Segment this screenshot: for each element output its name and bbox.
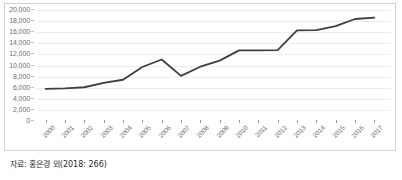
x-tick-label: 2005 (137, 124, 152, 139)
y-tick-mark (31, 98, 34, 99)
y-axis: 02,0004,0006,0008,00010,00012,00014,0001… (0, 9, 34, 120)
x-tick-label: 2009 (215, 124, 230, 139)
x-tick-label: 2010 (234, 124, 249, 139)
x-axis: 2000200120022003200420052006200720082009… (36, 122, 384, 150)
y-tick-mark (31, 109, 34, 110)
y-tick-mark (31, 53, 34, 54)
x-tick-label: 2006 (157, 124, 172, 139)
series-polyline (46, 18, 375, 89)
y-tick-mark (31, 120, 34, 121)
y-tick-label: 18,000 (9, 17, 30, 24)
x-tick-label: 2001 (60, 124, 75, 139)
x-tick-label: 2000 (41, 124, 56, 139)
y-tick-label: 12,000 (9, 50, 30, 57)
y-tick-mark (31, 20, 34, 21)
y-tick-mark (31, 87, 34, 88)
y-tick-label: 0 (26, 117, 30, 124)
y-tick-label: 14,000 (9, 39, 30, 46)
source-note: 자료: 홍은경 외(2018: 266) (10, 158, 107, 169)
y-tick-mark (31, 31, 34, 32)
y-tick-label: 4,000 (13, 94, 30, 101)
x-tick-label: 2014 (311, 124, 326, 139)
x-tick-label: 2013 (292, 124, 307, 139)
plot-area (36, 9, 384, 120)
y-tick-label: 8,000 (13, 72, 30, 79)
y-tick-label: 20,000 (9, 6, 30, 13)
x-tick-label: 2007 (176, 124, 191, 139)
y-tick-label: 16,000 (9, 28, 30, 35)
y-tick-mark (31, 65, 34, 66)
x-tick-label: 2011 (254, 124, 269, 139)
x-tick-label: 2003 (99, 124, 114, 139)
chart-figure: 02,0004,0006,0008,00010,00012,00014,0001… (0, 0, 402, 180)
y-tick-label: 6,000 (13, 83, 30, 90)
y-tick-mark (31, 42, 34, 43)
data-series-line (36, 9, 384, 120)
y-tick-mark (31, 76, 34, 77)
x-tick-label: 2017 (369, 124, 384, 139)
y-tick-mark (31, 9, 34, 10)
x-tick-label: 2002 (79, 124, 94, 139)
x-tick-label: 2004 (118, 124, 133, 139)
x-tick-label: 2016 (350, 124, 365, 139)
y-tick-label: 2,000 (13, 105, 30, 112)
x-tick-label: 2012 (273, 124, 288, 139)
x-tick-label: 2008 (195, 124, 210, 139)
x-tick-label: 2015 (331, 124, 346, 139)
y-tick-label: 10,000 (9, 61, 30, 68)
